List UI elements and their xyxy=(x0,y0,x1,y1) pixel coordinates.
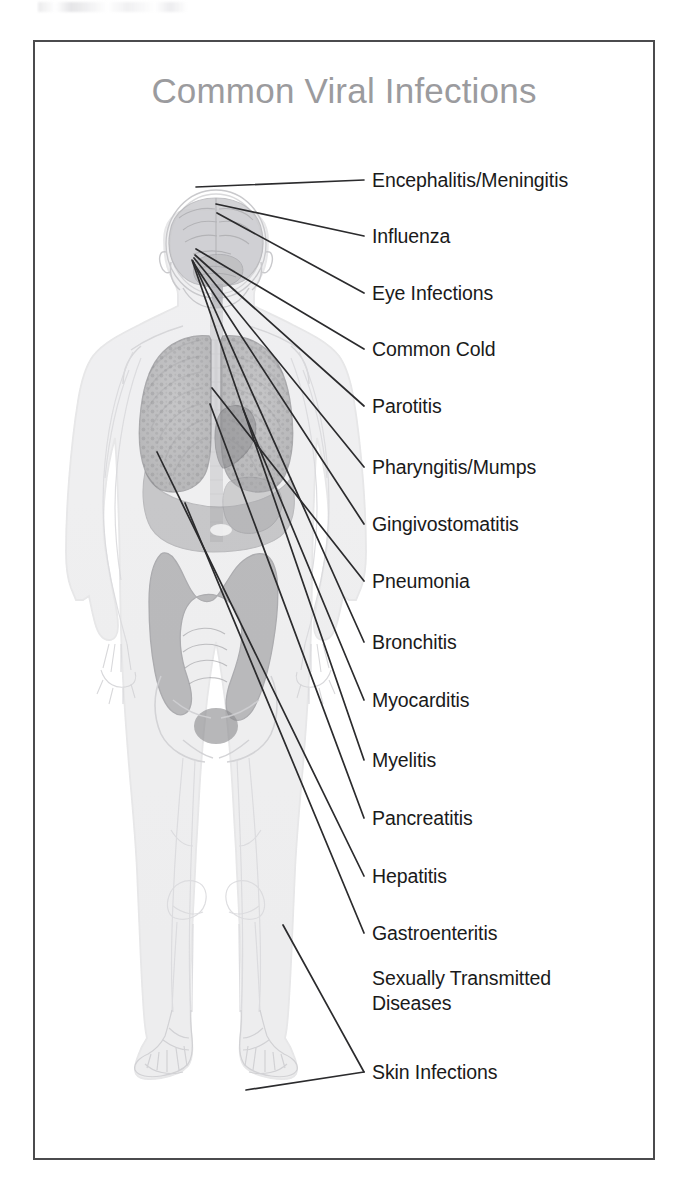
label-influenza: Influenza xyxy=(372,224,450,249)
label-pharyngitis-mumps: Pharyngitis/Mumps xyxy=(372,455,536,480)
label-hepatitis: Hepatitis xyxy=(372,864,447,889)
label-myelitis: Myelitis xyxy=(372,748,436,773)
label-eye-infections: Eye Infections xyxy=(372,281,493,306)
label-encephalitis-meningitis: Encephalitis/Meningitis xyxy=(372,168,568,193)
label-pneumonia: Pneumonia xyxy=(372,569,470,594)
label-skin-infections: Skin Infections xyxy=(372,1060,497,1085)
label-list: Encephalitis/Meningitis Influenza Eye In… xyxy=(0,0,673,1198)
label-sexually-transmitted-diseases: Sexually Transmitted Diseases xyxy=(372,966,551,1016)
diagram-page: Common Viral Infections xyxy=(0,0,673,1198)
label-myocarditis: Myocarditis xyxy=(372,688,470,713)
label-parotitis: Parotitis xyxy=(372,394,442,419)
label-gingivostomatitis: Gingivostomatitis xyxy=(372,512,519,537)
label-pancreatitis: Pancreatitis xyxy=(372,806,473,831)
label-common-cold: Common Cold xyxy=(372,337,496,362)
label-bronchitis: Bronchitis xyxy=(372,630,457,655)
label-gastroenteritis: Gastroenteritis xyxy=(372,921,497,946)
